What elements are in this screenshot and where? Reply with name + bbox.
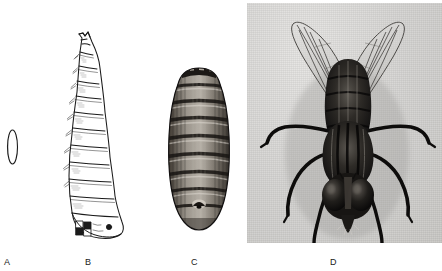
larva-illustration — [52, 28, 130, 246]
right-compound-eye — [348, 179, 374, 211]
figure-panel-pupa — [160, 64, 238, 236]
panel-label-d: D — [330, 257, 337, 267]
figure-panel-larva — [52, 28, 130, 246]
figure-panel-egg — [6, 129, 19, 165]
pupa-illustration — [160, 64, 238, 236]
left-compound-eye — [322, 179, 348, 211]
figure-panel-adult — [247, 3, 442, 243]
panel-label-a: A — [4, 257, 10, 267]
egg-illustration — [6, 129, 19, 165]
figure-plate: A B C D — [0, 0, 442, 271]
panel-label-b: B — [85, 257, 91, 267]
adult-fly-photograph — [247, 3, 442, 243]
panel-label-c: C — [191, 257, 198, 267]
